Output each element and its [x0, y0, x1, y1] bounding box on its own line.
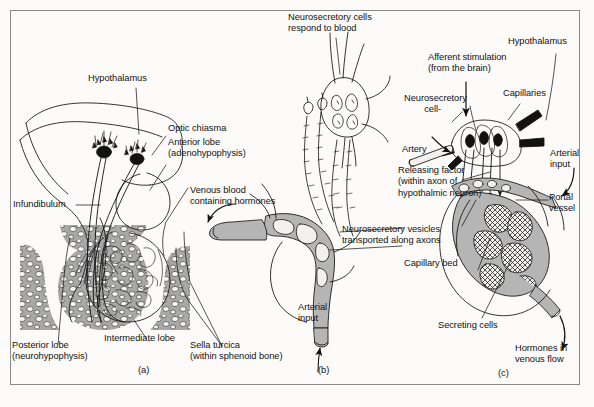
figure-root: Hypothalamus Optic chiasma Anterior lobe… — [0, 0, 594, 407]
label-capillaries: Capillaries — [503, 88, 546, 99]
label-hypothalamus-c: Hypothalamus — [508, 36, 567, 47]
label-hormones-venous-flow: Hormones in venous flow — [515, 343, 567, 366]
panel-label-b: (b) — [318, 365, 329, 375]
label-hypothalamus-a: Hypothalamus — [88, 73, 147, 84]
label-artery: Artery — [402, 144, 427, 155]
label-secreting-cells: Secreting cells — [438, 320, 498, 331]
label-neurosecretory-cell: Neurosecretory cell- — [404, 93, 467, 116]
label-posterior-lobe: Posterior lobe (neurohypophysis) — [12, 340, 88, 363]
label-sella-turcica: Sella turcica (within sphenoid bone) — [190, 340, 282, 363]
label-arterial-input-c: Arterial input — [550, 148, 579, 171]
label-optic-chiasma: Optic chiasma — [168, 123, 226, 134]
label-capillary-bed: Capillary bed — [404, 258, 458, 269]
panel-label-a: (a) — [138, 365, 149, 375]
label-neurosecretory-cells-respond: Neurosecretory cells respond to blood — [288, 12, 372, 35]
panel-label-c: (c) — [498, 368, 509, 378]
label-releasing-factor: Releasing factor (within axon of hypotha… — [398, 165, 481, 199]
label-intermediate-lobe: Intermediate lobe — [104, 333, 175, 344]
label-portal-vessel: Portal vessel — [549, 192, 575, 215]
label-anterior-lobe: Anterior lobe (adenohypophysis) — [168, 137, 246, 160]
label-neurosecretory-vesicles: Neurosecretory vesicles transported alon… — [342, 224, 441, 247]
label-infundibulum: Infundibulum — [13, 199, 66, 210]
label-arterial-input-b: Arterial input — [298, 302, 327, 325]
label-venous-blood: Venous blood containing hormones — [190, 185, 275, 208]
label-afferent-stimulation: Afferent stimulation (from the brain) — [428, 52, 506, 75]
